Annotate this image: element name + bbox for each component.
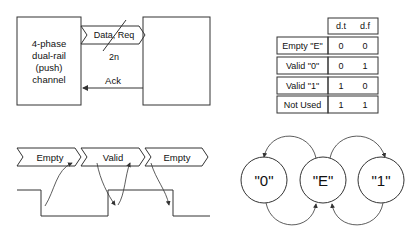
sender-box (17, 17, 81, 105)
transition-0-to-E (266, 203, 316, 225)
data-bus-label: Data, Req (94, 30, 135, 40)
cell-dt: 0 (338, 61, 343, 71)
table-row: Valid "1" 1 0 (277, 77, 378, 94)
phase-label-2: Valid (103, 152, 123, 163)
sender-label-line-3: (push) (36, 62, 63, 73)
table-row: Not Used 1 1 (277, 96, 378, 113)
sender-label-line-2: dual-rail (32, 50, 66, 61)
cell-df: 1 (362, 100, 367, 110)
channel-diagram: 4-phase dual-rail (push) channel Data, R… (17, 17, 210, 105)
causality-arrow-3 (118, 163, 130, 205)
diagram-canvas: 4-phase dual-rail (push) channel Data, R… (0, 0, 420, 236)
sender-label-line-1: 4-phase (32, 38, 66, 49)
causality-arrow-1 (45, 163, 72, 206)
ack-label: Ack (105, 75, 121, 86)
state-label-1: "1" (372, 172, 391, 189)
cell-df: 0 (362, 81, 367, 91)
cell-dt: 0 (338, 41, 343, 51)
encoding-table: d.t d.f Empty "E" 0 0 Valid "0" 0 1 Vali… (277, 18, 378, 113)
causality-arrow-4 (151, 163, 169, 205)
timing-diagram: Empty Valid Empty (17, 148, 210, 216)
cell-df: 1 (362, 61, 367, 71)
row-label: Valid "1" (286, 81, 319, 91)
column-header-dt: d.t (336, 21, 347, 31)
column-header-df: d.f (360, 21, 371, 31)
state-label-0: "0" (255, 172, 274, 189)
table-row: Valid "0" 0 1 (277, 57, 378, 74)
transition-1-to-E (332, 203, 383, 225)
receiver-box (143, 17, 210, 105)
state-diagram: "0" "E" "1" (241, 136, 404, 225)
cell-dt: 1 (338, 100, 343, 110)
row-label: Valid "0" (286, 61, 319, 71)
transition-E-to-1 (330, 136, 385, 158)
phase-label-1: Empty (37, 152, 64, 163)
state-label-E: "E" (313, 172, 334, 189)
row-label: Empty "E" (282, 41, 322, 51)
causality-arrow-2 (97, 163, 115, 205)
table-row: Empty "E" 0 0 (277, 37, 378, 54)
bus-width-label: 2n (109, 52, 119, 62)
transition-E-to-0 (264, 136, 316, 158)
cell-dt: 1 (338, 81, 343, 91)
phase-label-3: Empty (164, 152, 191, 163)
sender-label-line-4: channel (32, 74, 65, 85)
cell-df: 0 (362, 41, 367, 51)
row-label: Not Used (284, 100, 322, 110)
